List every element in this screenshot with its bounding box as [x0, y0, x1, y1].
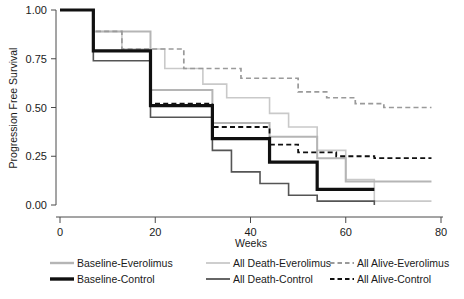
x-axis-title: Weeks	[235, 237, 267, 249]
y-tick-label: 1.00	[26, 4, 47, 16]
y-tick-label: 0.00	[26, 199, 47, 211]
progression-free-survival-chart: Progression Free Survival 0.000.250.500.…	[0, 0, 464, 299]
x-tick-label: 20	[149, 226, 161, 238]
legend-label: All Death-Everolimus	[233, 257, 331, 269]
x-tick-label: 60	[340, 226, 352, 238]
legend-label: All Death-Control	[233, 273, 313, 285]
y-tick-label: 0.75	[26, 53, 47, 65]
x-tick-label: 0	[57, 226, 63, 238]
legend-label: Baseline-Everolimus	[77, 257, 173, 269]
x-tick-label: 80	[435, 226, 447, 238]
y-axis-title: Progression Free Survival	[7, 48, 19, 169]
y-tick-label: 0.25	[26, 150, 47, 162]
legend-label: All Alive-Everolimus	[357, 257, 449, 269]
legend-label: Baseline-Control	[77, 273, 155, 285]
chart-background	[0, 0, 464, 299]
legend-label: All Alive-Control	[357, 273, 431, 285]
y-tick-label: 0.50	[26, 102, 47, 114]
